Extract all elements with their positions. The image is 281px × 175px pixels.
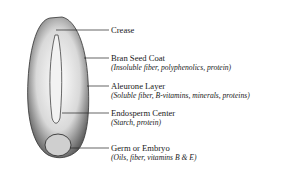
label-name: Germ or Embryo (111, 143, 196, 153)
label-germ-embryo: Germ or Embryo (Oils, fiber, vitamins B … (111, 143, 196, 163)
label-endosperm-center: Endosperm Center (Starch, protein) (111, 108, 175, 128)
label-name: Endosperm Center (111, 108, 175, 118)
label-name: Crease (111, 25, 134, 35)
label-name: Aleurone Layer (111, 81, 250, 91)
label-detail: (Soluble fiber, B-vitamins, minerals, pr… (111, 91, 250, 101)
label-bran-seed-coat: Bran Seed Coat (Insoluble fiber, polyphe… (111, 53, 231, 73)
label-name: Bran Seed Coat (111, 53, 231, 63)
label-detail: (Insoluble fiber, polyphenolics, protein… (111, 63, 231, 73)
germ-embryo (45, 134, 71, 156)
label-detail: (Oils, fiber, vitamins B & E) (111, 153, 196, 163)
label-aleurone-layer: Aleurone Layer (Soluble fiber, B-vitamin… (111, 81, 250, 101)
label-detail: (Starch, protein) (111, 118, 175, 128)
label-crease: Crease (111, 25, 134, 35)
